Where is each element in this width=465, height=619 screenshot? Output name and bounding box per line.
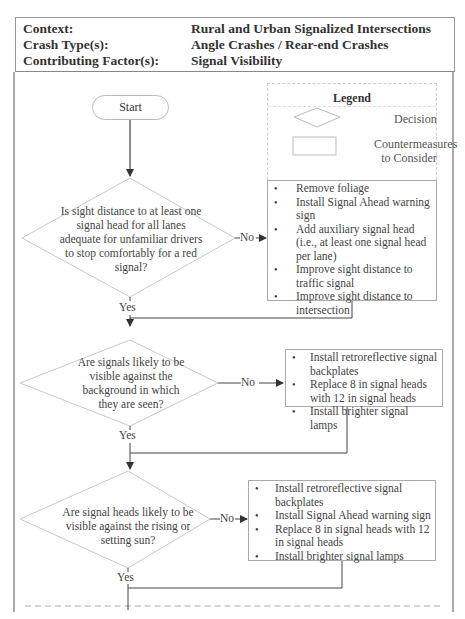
decision-2-text: Are signals likely to be visible against… [72,355,190,411]
yes-label-3: Yes [117,571,134,583]
no-label-2: No [241,376,255,388]
legend-decision-label: Decision [394,112,437,127]
legend: Legend Decision Countermeasures to Consi… [267,83,437,185]
connector-return-3 [128,561,342,588]
countermeasure-item: Add auxiliary signal head (i.e., at leas… [274,223,432,264]
decision-3-text: Are signal heads likely to be visible ag… [60,505,196,547]
countermeasure-item: Install brighter signal lamps [292,405,438,432]
decision-1-text: Is sight distance to at least one signal… [58,204,204,274]
countermeasures-box-2: Install retroreflective signal backplate… [285,349,443,407]
countermeasure-item: Install Signal Ahead warning sign [274,196,432,223]
no-label-3: No [220,512,234,524]
countermeasure-item: Install retroreflective signal backplate… [255,482,431,509]
countermeasure-item: Remove foliage [274,182,432,196]
yes-label-1: Yes [119,301,136,313]
yes-label-2: Yes [119,429,136,441]
countermeasure-item: Improve sight distance to intersection [274,290,432,317]
legend-countermeasures-label: Countermeasures to Consider [374,137,444,165]
countermeasure-item: Improve sight distance to traffic signal [274,263,432,290]
start-terminator: Start [92,95,169,120]
countermeasures-box-3: Install retroreflective signal backplate… [248,480,436,561]
no-label-1: No [240,231,254,243]
countermeasure-item: Replace 8 in signal heads with 12 in sig… [255,523,431,550]
countermeasure-item: Replace 8 in signal heads with 12 in sig… [292,378,438,405]
countermeasure-item: Install retroreflective signal backplate… [292,351,438,378]
countermeasure-item: Install brighter signal lamps [255,550,431,564]
legend-title: Legend [268,91,436,106]
countermeasure-item: Install Signal Ahead warning sign [255,509,431,523]
legend-separator [268,106,436,107]
countermeasures-box-1: Remove foliage Install Signal Ahead warn… [267,180,437,301]
